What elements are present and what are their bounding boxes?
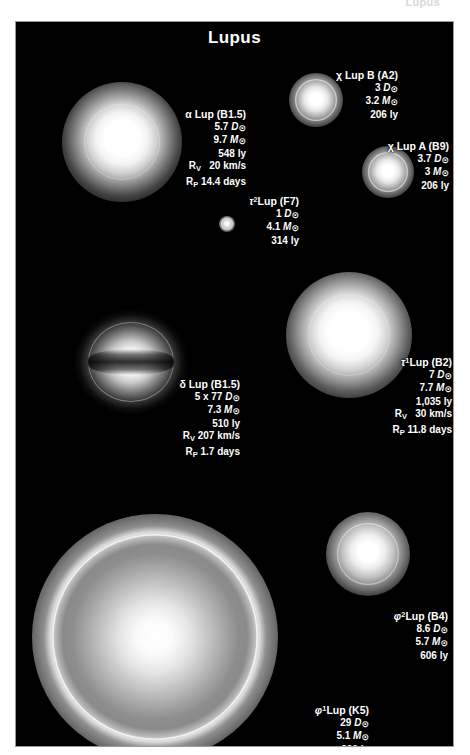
label-alpha-lup-mass: 9.7 M⊙ <box>126 134 246 148</box>
label-phi2-lup-distance: 606 ly <box>323 650 448 663</box>
label-alpha-lup: α Lup (B1.5) 5.7 D⊙ 9.7 M⊙ 548 ly RV 20 … <box>126 108 246 191</box>
label-tau2-lup: τ2Lup (F7) 1 D⊙ 4.1 M⊙ 314 ly <box>181 194 299 247</box>
top-caption: Lupus <box>0 0 470 8</box>
label-phi1-lup-mass: 5.1 M⊙ <box>244 730 369 744</box>
label-delta-lup-rotation-period: RP 1.7 days <box>120 446 240 462</box>
label-chi-lup-a-name: χ Lup A (B9) <box>321 140 449 153</box>
label-phi2-lup: φ2Lup (B4) 8.6 D⊙ 5.7 M⊙ 606 ly <box>323 609 448 662</box>
label-phi1-lup-diameter: 29 D⊙ <box>244 717 369 731</box>
label-chi-lup-a: χ Lup A (B9) 3.7 D⊙ 3 M⊙ 206 ly <box>321 140 449 192</box>
label-phi1-lup-name: φ1Lup (K5) <box>244 703 369 717</box>
star-phi1-lup-limb <box>52 534 258 740</box>
label-chi-lup-b-diameter: 3 D⊙ <box>266 82 398 96</box>
label-tau1-lup-name: τ1Lup (B2) <box>332 355 452 369</box>
label-chi-lup-a-diameter: 3.7 D⊙ <box>321 153 449 167</box>
label-tau2-lup-mass: 4.1 M⊙ <box>181 221 299 235</box>
page-title: Lupus <box>16 28 453 48</box>
label-phi2-lup-diameter: 8.6 D⊙ <box>323 623 448 637</box>
star-delta-lup-equatorial-band <box>88 349 174 375</box>
label-alpha-lup-diameter: 5.7 D⊙ <box>126 121 246 135</box>
label-tau1-lup-rotation-velocity: RV 30 km/s <box>332 408 452 424</box>
star-phi2-lup-limb <box>337 523 399 585</box>
label-tau1-lup-distance: 1,035 ly <box>332 396 452 409</box>
label-tau2-lup-name: τ2Lup (F7) <box>181 194 299 208</box>
label-chi-lup-b-name: χ Lup B (A2) <box>266 69 398 82</box>
label-delta-lup-distance: 510 ly <box>120 418 240 431</box>
label-chi-lup-a-mass: 3 M⊙ <box>321 166 449 180</box>
label-delta-lup-rotation-velocity: RV 207 km/s <box>120 430 240 446</box>
label-phi1-lup: φ1Lup (K5) 29 D⊙ 5.1 M⊙ 326 ly <box>244 703 369 746</box>
label-chi-lup-a-distance: 206 ly <box>321 180 449 193</box>
label-phi2-lup-mass: 5.7 M⊙ <box>323 636 448 650</box>
label-tau1-lup-mass: 7.7 M⊙ <box>332 382 452 396</box>
label-chi-lup-b-distance: 206 ly <box>266 109 398 122</box>
label-tau1-lup-rotation-period: RP 11.8 days <box>332 424 452 440</box>
label-alpha-lup-rotation-velocity: RV 20 km/s <box>126 160 246 176</box>
label-tau1-lup-diameter: 7 D⊙ <box>332 369 452 383</box>
label-chi-lup-b: χ Lup B (A2) 3 D⊙ 3.2 M⊙ 206 ly <box>266 69 398 121</box>
label-delta-lup: δ Lup (B1.5) 5 x 77 D⊙ 7.3 M⊙ 510 ly RV … <box>120 378 240 461</box>
star-comparison-panel: Lupus α Lup (B1.5) 5.7 D⊙ 9.7 M⊙ 548 ly <box>16 22 453 746</box>
label-phi1-lup-distance: 326 ly <box>244 744 369 747</box>
label-phi2-lup-name: φ2Lup (B4) <box>323 609 448 623</box>
label-delta-lup-diameter: 5 x 77 D⊙ <box>120 391 240 405</box>
label-tau1-lup: τ1Lup (B2) 7 D⊙ 7.7 M⊙ 1,035 ly RV 30 km… <box>332 355 452 439</box>
label-tau2-lup-diameter: 1 D⊙ <box>181 208 299 222</box>
label-chi-lup-b-mass: 3.2 M⊙ <box>266 95 398 109</box>
label-delta-lup-mass: 7.3 M⊙ <box>120 404 240 418</box>
label-alpha-lup-distance: 548 ly <box>126 148 246 161</box>
label-alpha-lup-rotation-period: RP 14.4 days <box>126 176 246 192</box>
label-tau2-lup-distance: 314 ly <box>181 235 299 248</box>
label-delta-lup-name: δ Lup (B1.5) <box>120 378 240 391</box>
label-alpha-lup-name: α Lup (B1.5) <box>126 108 246 121</box>
